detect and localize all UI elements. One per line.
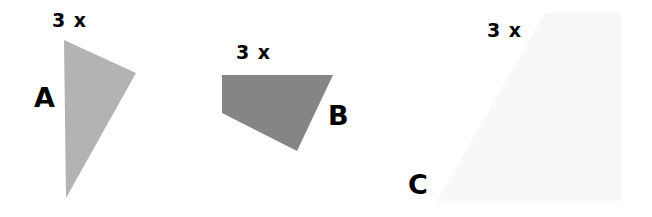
shape-a-scale-label: 3 x [52, 11, 87, 30]
shape-c-scale-label: 3 x [487, 21, 522, 40]
shape-b-quadrilateral [222, 75, 333, 151]
shape-b-label: B [328, 102, 349, 129]
shape-c-label: C [408, 171, 428, 198]
shape-c-trapezoid [437, 13, 622, 201]
shape-a-triangle [64, 40, 136, 198]
shape-b-scale-label: 3 x [236, 43, 271, 62]
figure-canvas [0, 0, 652, 217]
shape-a-label: A [34, 84, 55, 111]
